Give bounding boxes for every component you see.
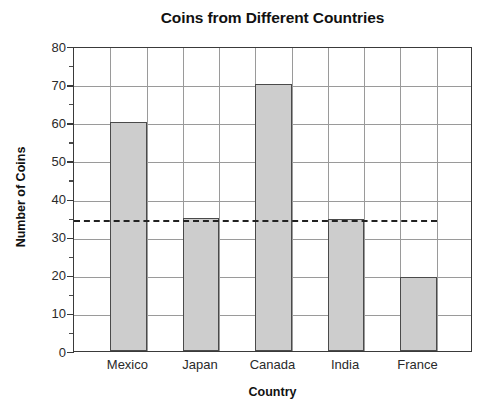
y-tick-label: 80 (26, 41, 66, 54)
y-tick-label: 30 (26, 231, 66, 244)
x-axis-title: Country (73, 385, 472, 399)
y-tick-label: 60 (26, 117, 66, 130)
vertical-gridline (219, 48, 220, 351)
y-tick-label: 50 (26, 155, 66, 168)
bar-france (400, 277, 436, 351)
chart-title: Coins from Different Countries (73, 9, 472, 27)
vertical-gridline (292, 48, 293, 351)
bar-mexico (110, 122, 146, 351)
y-tick-mark-major (67, 352, 74, 353)
plot-area (73, 47, 472, 352)
vertical-gridline (147, 48, 148, 351)
y-tick-label: 40 (26, 193, 66, 206)
bar-india (328, 219, 364, 351)
reference-line-35 (74, 220, 437, 222)
plot-inner (74, 48, 471, 351)
x-tick-label-france: France (373, 357, 463, 372)
vertical-gridline (364, 48, 365, 351)
y-tick-label: 20 (26, 269, 66, 282)
y-tick-label: 70 (26, 79, 66, 92)
vertical-gridline (437, 48, 438, 351)
bar-japan (183, 218, 219, 351)
y-tick-label: 0 (26, 346, 66, 359)
y-tick-label: 10 (26, 307, 66, 320)
bar-canada (255, 84, 291, 351)
bar-chart-figure: Coins from Different Countries Number of… (0, 0, 495, 417)
y-axis-tick-labels: 01020304050607080 (22, 47, 66, 352)
